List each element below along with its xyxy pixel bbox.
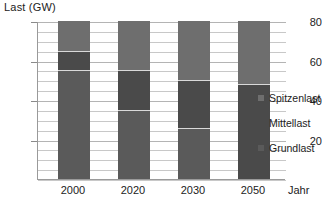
stacked-bar[interactable] [118, 21, 150, 179]
legend-item[interactable]: Grundlast [258, 142, 320, 154]
legend-swatch-icon [258, 120, 264, 126]
bar-segment-spitzenlast[interactable] [118, 21, 150, 70]
legend-label: Mittellast [269, 117, 310, 129]
chart-legend: SpitzenlastMittellastGrundlast [258, 92, 320, 154]
bar-segment-spitzenlast[interactable] [238, 21, 270, 84]
bar-segment-mittellast[interactable] [178, 80, 210, 127]
bar-group[interactable] [52, 21, 96, 179]
legend-swatch-icon [258, 95, 264, 101]
bar-segment-grundlast[interactable] [118, 110, 150, 179]
y-axis-title: Last (GW) [4, 1, 56, 13]
y-axis-tick-label: 80 [292, 16, 322, 28]
legend-label: Grundlast [269, 142, 315, 154]
bar-segment-mittellast[interactable] [118, 70, 150, 110]
y-axis-tick-mark [31, 101, 37, 102]
bar-segment-grundlast[interactable] [178, 128, 210, 179]
plot-area [37, 22, 285, 180]
x-axis-title: Jahr [288, 184, 309, 196]
bar-group[interactable] [172, 21, 216, 179]
chart-container: Last (GW) 20406080 2000202020302050 Jahr… [0, 0, 322, 203]
legend-item[interactable]: Mittellast [258, 117, 320, 129]
bar-segment-spitzenlast[interactable] [58, 21, 90, 51]
legend-label: Spitzenlast [269, 92, 320, 104]
bar-group[interactable] [112, 21, 156, 179]
y-axis-tick-mark [31, 22, 37, 23]
legend-swatch-icon [258, 145, 264, 151]
y-axis-tick-mark [31, 141, 37, 142]
legend-item[interactable]: Spitzenlast [258, 92, 320, 104]
bar-segment-mittellast[interactable] [58, 51, 90, 71]
y-axis-tick-mark [31, 62, 37, 63]
grid-line [38, 180, 286, 181]
x-axis-tick-label: 2050 [223, 184, 283, 196]
bar-segment-grundlast[interactable] [58, 70, 90, 179]
x-axis-tick-label: 2030 [163, 184, 223, 196]
stacked-bar[interactable] [58, 21, 90, 179]
y-axis-tick-label: 60 [292, 56, 322, 68]
x-axis-tick-label: 2000 [43, 184, 103, 196]
x-axis-tick-label: 2020 [103, 184, 163, 196]
bar-segment-spitzenlast[interactable] [178, 21, 210, 80]
stacked-bar[interactable] [178, 21, 210, 179]
